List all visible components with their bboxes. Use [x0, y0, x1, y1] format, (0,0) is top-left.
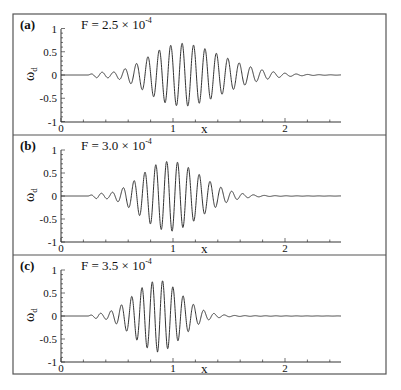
y-tick-label: 0 [52, 190, 58, 202]
y-tick-label: 0.5 [43, 287, 57, 299]
x-tick-label: 1 [170, 122, 176, 134]
x-tick-label: 2 [282, 122, 288, 134]
x-axis-label: x [201, 361, 208, 376]
x-tick-label: 1 [170, 362, 176, 374]
panel-label: (c) [20, 258, 34, 273]
x-tick-label: 0 [58, 242, 64, 254]
y-tick-label: -0.5 [40, 213, 58, 225]
y-tick-label: 0 [52, 310, 58, 322]
y-tick-label: 1 [52, 264, 58, 276]
figure-background [0, 0, 401, 390]
x-tick-label: 1 [170, 242, 176, 254]
y-tick-label: -1 [48, 116, 57, 128]
y-tick-label: 1 [52, 23, 58, 35]
y-tick-label: -0.5 [40, 92, 58, 104]
figure: 10.50-0.5-1012xωd(a)F = 2.5 × 10-410.50-… [0, 0, 401, 390]
y-tick-label: 1 [52, 144, 58, 156]
panel-title: F = 3.0 × 10-4 [81, 137, 152, 153]
panel-title: F = 3.5 × 10-4 [81, 257, 152, 273]
panel-title: F = 2.5 × 10-4 [81, 16, 152, 32]
y-tick-label: 0.5 [43, 46, 57, 58]
x-tick-label: 2 [282, 362, 288, 374]
y-tick-label: 0.5 [43, 167, 57, 179]
y-tick-label: -1 [48, 236, 57, 248]
panel-label: (b) [20, 138, 36, 153]
x-tick-label: 0 [58, 122, 64, 134]
x-tick-label: 2 [282, 242, 288, 254]
panel-label: (a) [20, 17, 35, 32]
x-axis-label: x [201, 121, 208, 136]
y-tick-label: 0 [52, 69, 58, 81]
y-tick-label: -0.5 [40, 333, 58, 345]
y-tick-label: -1 [48, 356, 57, 368]
x-tick-label: 0 [58, 362, 64, 374]
x-axis-label: x [201, 241, 208, 256]
